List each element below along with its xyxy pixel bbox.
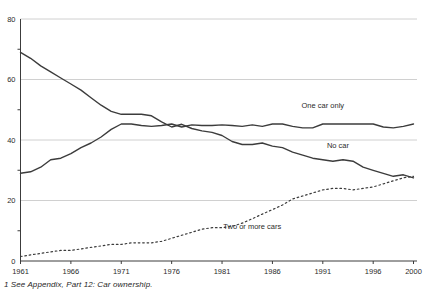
y-tick-label-0: 0: [11, 257, 15, 266]
car-ownership-chart: 0204060801961196619711976198119861991199…: [0, 0, 424, 303]
x-tick-label-1976: 1976: [163, 267, 180, 276]
y-tick-label-40: 40: [7, 136, 15, 145]
series-label-no-car: No car: [327, 141, 350, 150]
series-line-one-car-only: [21, 124, 414, 173]
x-tick-label-1961: 1961: [12, 267, 29, 276]
x-tick-label-1966: 1966: [63, 267, 80, 276]
series-line-no-car: [21, 52, 414, 178]
series-line-two-or-more-cars: [21, 176, 414, 256]
footnote: 1 See Appendix, Part 12: Car ownership.: [4, 280, 153, 289]
y-tick-label-80: 80: [7, 15, 15, 24]
x-tick-label-2000: 2000: [405, 267, 422, 276]
x-tick-label-1996: 1996: [365, 267, 382, 276]
x-tick-label-1971: 1971: [113, 267, 130, 276]
x-tick-label-1981: 1981: [214, 267, 231, 276]
x-tick-label-1986: 1986: [264, 267, 281, 276]
series-label-one-car-only: One car only: [302, 101, 345, 110]
y-tick-label-20: 20: [7, 196, 15, 205]
y-tick-label-60: 60: [7, 75, 15, 84]
series-label-two-or-more-cars: Two or more cars: [223, 222, 281, 231]
x-tick-label-1991: 1991: [314, 267, 331, 276]
car-ownership-figure: 0204060801961196619711976198119861991199…: [0, 0, 424, 303]
